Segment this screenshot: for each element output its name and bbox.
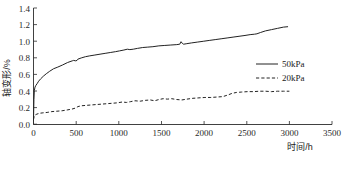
y-tick-label: 0.0 (19, 120, 31, 130)
y-axis-title: 轴变形/% (1, 59, 12, 97)
x-tick-label: 500 (69, 128, 83, 138)
y-tick-label: 1.2 (19, 20, 30, 30)
y-tick-label: 0.2 (19, 103, 30, 113)
series-line-20kpa (34, 91, 290, 119)
x-tick-label: 2000 (195, 128, 214, 138)
x-axis-tick-labels: 0 500 1000 1500 2000 2500 3000 3500 (31, 128, 341, 138)
x-tick-label: 2500 (238, 128, 257, 138)
y-tick-label: 1.4 (19, 4, 31, 14)
creep-curve-chart: 轴变形/% 1.4 1.2 1.0 0.8 0.6 0.4 0.2 0.0 (0, 0, 346, 169)
x-tick-label: 0 (31, 128, 36, 138)
chart-legend: 50kPa 20kPa (256, 59, 305, 83)
y-axis-tick-labels: 1.4 1.2 1.0 0.8 0.6 0.4 0.2 0.0 (19, 4, 31, 130)
legend-label-50kpa: 50kPa (282, 59, 305, 69)
legend-label-20kpa: 20kPa (282, 73, 305, 83)
series-line-50kpa (34, 27, 288, 121)
y-tick-label: 0.4 (19, 87, 31, 97)
x-axis-title: 时间/h (287, 141, 313, 152)
x-tick-label: 3000 (280, 128, 299, 138)
x-tick-label: 1500 (153, 128, 172, 138)
x-tick-label: 3500 (323, 128, 342, 138)
y-tick-label: 1.0 (19, 37, 31, 47)
x-tick-label: 1000 (110, 128, 129, 138)
chart-figure: 轴变形/% 1.4 1.2 1.0 0.8 0.6 0.4 0.2 0.0 (0, 0, 346, 169)
y-tick-label: 0.6 (19, 70, 31, 80)
x-axis-ticks (34, 121, 333, 125)
y-tick-label: 0.8 (19, 53, 31, 63)
